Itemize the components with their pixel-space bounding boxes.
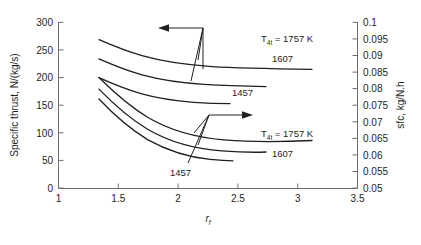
right-tick-label: 0.05 [363, 183, 383, 194]
curve-label-sfc-1607: 1607 [272, 148, 293, 159]
x-tick-label: 1.5 [111, 193, 125, 204]
curve-label-thrust-1457: 1457 [232, 87, 253, 98]
right-tick-label: 0.095 [363, 34, 388, 45]
x-axis-title: rf [205, 213, 211, 226]
right-tick-label: 0.085 [363, 67, 388, 78]
right-tick-label: 0.055 [363, 166, 388, 177]
T-equals: = [272, 128, 283, 139]
x-tick-label: 3 [295, 193, 301, 204]
left-tick-labels: 300 250 200 150 100 50 0 [36, 17, 53, 194]
curve-thrust-1457 [99, 78, 230, 104]
left-tick-label: 300 [36, 17, 53, 28]
left-tick-label: 150 [36, 100, 53, 111]
left-axis-title: Specific thrust, N/(kg/s) [9, 53, 20, 156]
curve-label-sfc-1457: 1457 [170, 167, 191, 178]
left-tick-label: 100 [36, 128, 53, 139]
curve-thrust-1607 [99, 59, 266, 87]
left-tick-label: 0 [47, 183, 53, 194]
curve-label-thrust-1757: T4t = 1757 K [261, 33, 314, 46]
axes-frame [59, 22, 358, 189]
right-arrow-head [242, 111, 253, 119]
left-arrow-leader-1607 [191, 28, 203, 81]
x-tick-label: 2 [175, 193, 181, 204]
left-tick-label: 50 [42, 155, 54, 166]
x-tick-labels: 1 1.5 2 2.5 3 3.5 [56, 193, 365, 204]
specific-thrust-curves [99, 40, 312, 104]
x-tick-label: 2.5 [231, 193, 245, 204]
T-equals: = [272, 33, 283, 44]
x-axis-title-sub: f [209, 219, 212, 226]
right-arrow-leader-1757 [194, 115, 209, 133]
right-tick-labels: 0.1 0.095 0.09 0.085 0.08 0.075 0.07 0.0… [363, 17, 388, 194]
left-axis-arrow-annotation [166, 28, 203, 81]
left-arrow-head [158, 24, 169, 32]
right-tick-label: 0.065 [363, 133, 388, 144]
right-tick-label: 0.1 [363, 17, 377, 28]
x-tick-label: 1 [56, 193, 62, 204]
right-tick-label: 0.09 [363, 50, 383, 61]
chart-figure: 300 250 200 150 100 50 0 0.1 0.095 0.09 … [0, 0, 421, 245]
right-tick-label: 0.06 [363, 150, 383, 161]
T-value: 1757 K [283, 128, 314, 139]
right-axis-title: sfc, kg/N.h [395, 81, 406, 128]
curve-sfc-1607 [99, 89, 266, 152]
right-tick-label: 0.08 [363, 83, 383, 94]
curve-label-thrust-1607: 1607 [272, 53, 293, 64]
x-axis-ticks [59, 184, 358, 189]
left-axis-ticks [59, 22, 64, 188]
right-tick-label: 0.075 [363, 100, 388, 111]
chart-svg: 300 250 200 150 100 50 0 0.1 0.095 0.09 … [0, 0, 421, 245]
T-value: 1757 K [283, 33, 314, 44]
right-axis-ticks [353, 22, 358, 188]
right-arrow-leader-1457 [188, 115, 209, 163]
right-tick-label: 0.07 [363, 117, 383, 128]
left-tick-label: 250 [36, 45, 53, 56]
x-tick-label: 3.5 [351, 193, 365, 204]
left-tick-label: 200 [36, 72, 53, 83]
curve-label-sfc-1757: T4t = 1757 K [261, 128, 314, 141]
